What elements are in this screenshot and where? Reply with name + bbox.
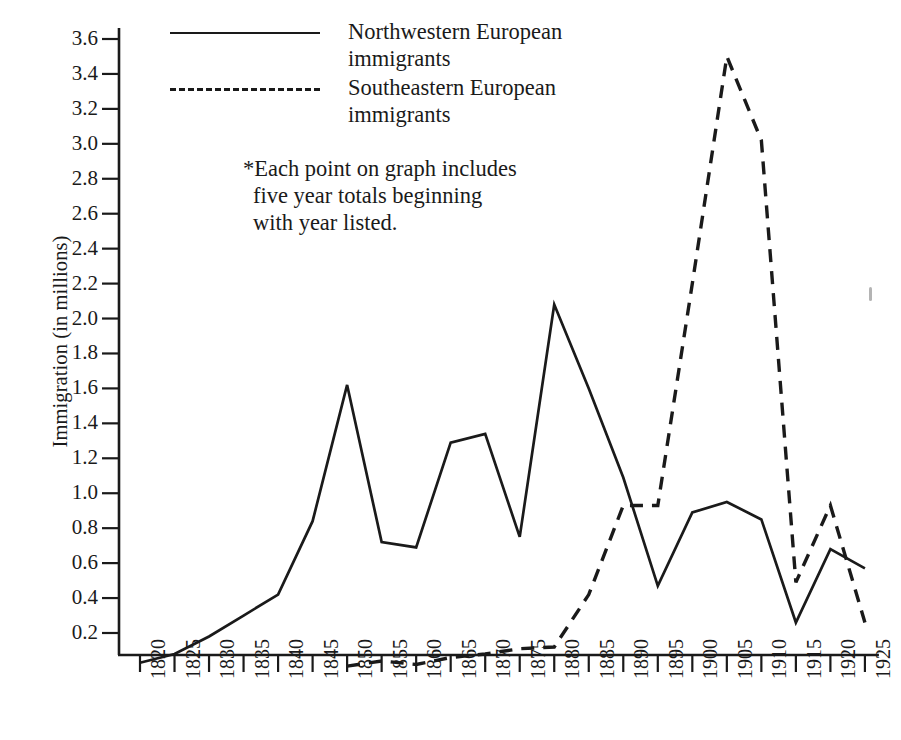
x-tick-label: 1910 <box>769 639 789 679</box>
immigration-line-chart: Immigration (in millions) 3.63.43.23.02.… <box>0 0 901 740</box>
x-tick-label: 1840 <box>286 639 306 679</box>
series-line-northwestern <box>140 305 865 663</box>
y-tick-label: 1.4 <box>38 412 98 433</box>
footnote-line-2: five year totals beginning <box>243 182 573 209</box>
x-tick-label: 1860 <box>424 639 444 679</box>
y-tick-label: 3.6 <box>38 28 98 49</box>
y-tick-label: 3.2 <box>38 98 98 119</box>
chart-footnote: *Each point on graph includes five year … <box>243 155 573 236</box>
y-tick-label: 2.6 <box>38 203 98 224</box>
y-tick-label: 2.2 <box>38 273 98 294</box>
legend-swatch-solid-line-icon <box>170 32 320 34</box>
y-tick-label: 1.6 <box>38 377 98 398</box>
y-tick-label: 2.8 <box>38 168 98 189</box>
y-tick-label: 3.4 <box>38 63 98 84</box>
y-tick-label: 2.4 <box>38 238 98 259</box>
x-tick-label: 1920 <box>838 639 858 679</box>
x-tick-label: 1870 <box>493 639 513 679</box>
x-tick-label: 1845 <box>321 639 341 679</box>
x-tick-label: 1865 <box>459 639 479 679</box>
y-tick-label: 0.4 <box>38 587 98 608</box>
x-tick-label: 1850 <box>355 639 375 679</box>
y-tick-label: 1.0 <box>38 482 98 503</box>
x-tick-label: 1885 <box>597 639 617 679</box>
footnote-line-3: with year listed. <box>243 209 573 236</box>
y-tick-marks <box>102 39 119 633</box>
legend-label-southeastern: Southeastern European immigrants <box>348 74 648 128</box>
x-tick-label: 1825 <box>183 639 203 679</box>
y-tick-label: 0.2 <box>38 622 98 643</box>
legend-item-southeastern: Southeastern European immigrants <box>170 74 650 130</box>
y-tick-label: 3.0 <box>38 133 98 154</box>
legend-label-northwestern: Northwestern European immigrants <box>348 18 648 72</box>
x-tick-label: 1895 <box>666 639 686 679</box>
x-tick-label: 1855 <box>390 639 410 679</box>
footnote-line-1: *Each point on graph includes <box>243 155 573 182</box>
x-tick-label: 1905 <box>735 639 755 679</box>
y-tick-label: 0.6 <box>38 552 98 573</box>
legend-item-northwestern: Northwestern European immigrants <box>170 18 650 74</box>
data-series <box>140 56 865 666</box>
x-tick-label: 1915 <box>804 639 824 679</box>
legend: Northwestern European immigrants Southea… <box>170 18 650 130</box>
x-tick-label: 1900 <box>700 639 720 679</box>
x-tick-label: 1875 <box>528 639 548 679</box>
x-tick-label: 1925 <box>873 639 893 679</box>
y-tick-label: 2.0 <box>38 308 98 329</box>
x-tick-label: 1830 <box>217 639 237 679</box>
y-tick-label: 1.8 <box>38 342 98 363</box>
y-tick-label: 0.8 <box>38 517 98 538</box>
scan-artifact-mark <box>869 287 872 301</box>
legend-swatch-dashed-line-icon <box>170 88 320 91</box>
y-tick-label: 1.2 <box>38 447 98 468</box>
x-tick-label: 1890 <box>631 639 651 679</box>
x-tick-label: 1820 <box>148 639 168 679</box>
x-tick-label: 1835 <box>252 639 272 679</box>
series-line-southeastern <box>347 56 865 666</box>
x-tick-label: 1880 <box>562 639 582 679</box>
